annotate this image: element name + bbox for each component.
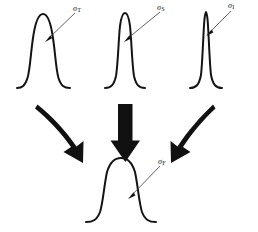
label-sigma-i: σI	[228, 2, 234, 11]
label-sigma-i-subscript: I	[232, 3, 234, 10]
arrow-right-curved	[171, 105, 216, 164]
arrow-center-straight	[111, 104, 141, 162]
diagram-svg	[0, 0, 258, 232]
arrow-left-curved	[35, 105, 84, 164]
label-sigma-s-subscript: S	[161, 5, 165, 12]
curve-sigma-i	[190, 12, 222, 88]
leader-arrowhead-sigma-f	[128, 192, 135, 199]
leader-line-sigma-i	[209, 11, 231, 33]
curve-sigma-f	[86, 158, 156, 222]
label-sigma-f-subscript: F	[162, 159, 166, 166]
leader-line-sigma-t	[48, 13, 75, 39]
figure-canvas: σT σS σI σF	[0, 0, 258, 232]
label-sigma-t-subscript: T	[77, 6, 81, 13]
leader-line-sigma-s	[127, 12, 160, 39]
leader-arrowhead-sigma-i	[206, 29, 213, 36]
label-sigma-f: σF	[158, 158, 166, 167]
label-sigma-s: σS	[157, 4, 165, 13]
curve-sigma-s	[105, 13, 145, 88]
label-sigma-t: σT	[73, 5, 81, 14]
